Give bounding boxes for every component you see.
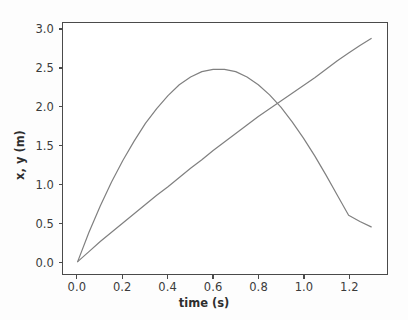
y-tick-mark xyxy=(59,184,63,185)
y-tick-mark xyxy=(59,67,63,68)
x-tick-mark xyxy=(76,275,77,279)
x-tick-mark xyxy=(167,275,168,279)
y-tick-mark xyxy=(59,223,63,224)
y-tick-label: 2.0 xyxy=(0,100,54,114)
plot-axes xyxy=(62,22,388,275)
y-tick-mark xyxy=(59,28,63,29)
y-axis-label: x, y (m) xyxy=(13,95,27,215)
x-tick-mark xyxy=(212,275,213,279)
x-axis-label: time (s) xyxy=(0,296,408,310)
y-tick-label: 2.5 xyxy=(0,61,54,75)
y-tick-mark xyxy=(59,262,63,263)
line-series-y xyxy=(78,69,372,261)
y-tick-mark xyxy=(59,106,63,107)
x-tick-label: 1.2 xyxy=(319,280,379,294)
y-tick-label: 0.5 xyxy=(0,217,54,231)
y-tick-label: 1.5 xyxy=(0,139,54,153)
line-series-x xyxy=(78,38,372,261)
y-tick-label: 0.0 xyxy=(0,256,54,270)
y-tick-mark xyxy=(59,145,63,146)
x-tick-mark xyxy=(258,275,259,279)
y-tick-label: 3.0 xyxy=(0,22,54,36)
y-tick-label: 1.0 xyxy=(0,178,54,192)
x-tick-mark xyxy=(349,275,350,279)
x-tick-mark xyxy=(303,275,304,279)
x-tick-mark xyxy=(122,275,123,279)
plot-lines xyxy=(63,23,387,274)
figure-canvas: 0.00.51.01.52.02.53.0 0.00.20.40.60.81.0… xyxy=(0,0,408,320)
